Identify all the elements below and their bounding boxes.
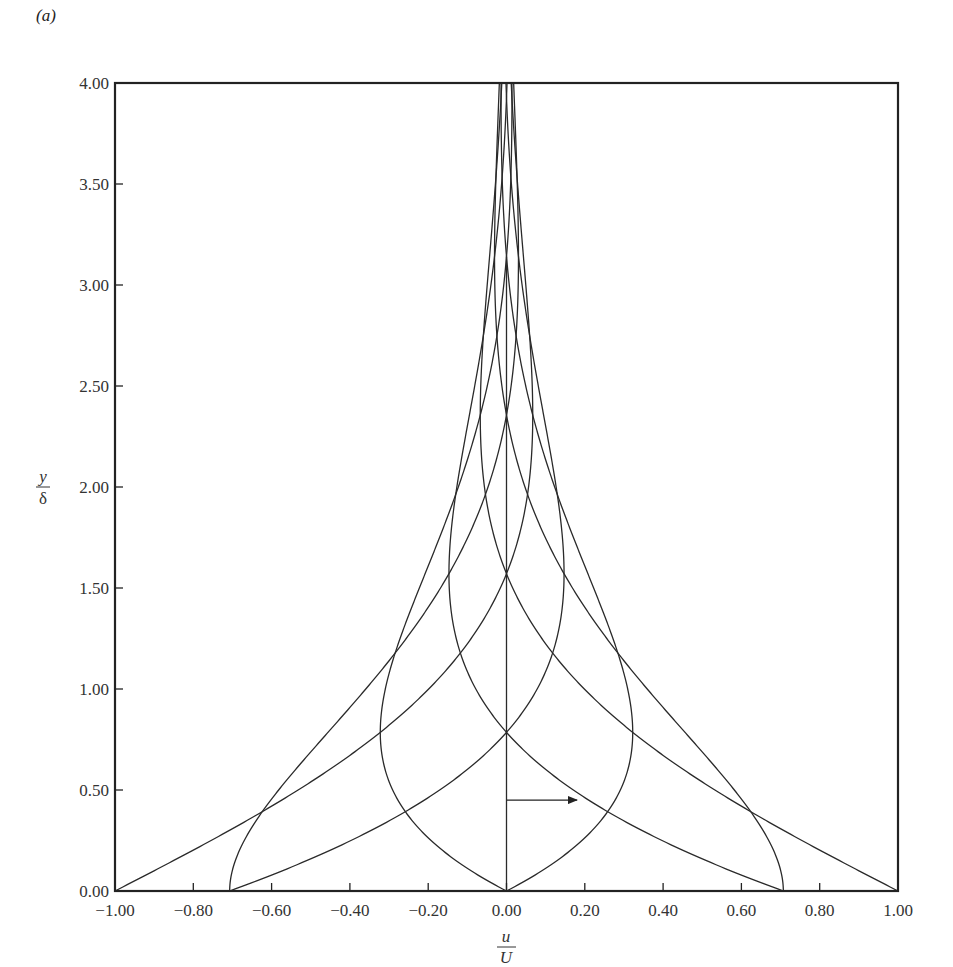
profile-curve-180: [115, 83, 533, 891]
y-tick-label: 0.00: [79, 882, 109, 901]
x-tick-label: −1.00: [95, 901, 134, 920]
y-tick-label: 2.00: [79, 478, 109, 497]
y-tick-label: 0.50: [79, 781, 109, 800]
profile-curve-0: [480, 83, 898, 891]
profile-curve-45: [495, 83, 784, 891]
x-tick-label: 0.40: [648, 901, 678, 920]
x-axis-ticks: −1.00−0.80−0.60−0.40−0.200.000.200.400.6…: [95, 883, 913, 920]
annotations: [507, 257, 577, 891]
y-tick-label: 1.00: [79, 680, 109, 699]
x-tick-label: −0.20: [409, 901, 448, 920]
x-tick-label: 0.20: [570, 901, 600, 920]
y-tick-label: 3.50: [79, 175, 109, 194]
y-axis-ticks: 0.000.501.001.502.002.503.003.504.00: [79, 74, 123, 901]
profile-curve-315: [449, 83, 783, 891]
x-label-denominator: U: [500, 948, 514, 967]
x-tick-label: −0.60: [252, 901, 291, 920]
x-tick-label: 1.00: [883, 901, 913, 920]
profile-curve-135: [230, 83, 564, 891]
y-tick-label: 3.00: [79, 276, 109, 295]
x-tick-label: 0.00: [492, 901, 522, 920]
y-tick-label: 1.50: [79, 579, 109, 598]
profile-curve-90: [501, 83, 633, 891]
x-tick-label: −0.40: [330, 901, 369, 920]
x-label-numerator: u: [502, 927, 511, 946]
velocity-profile-chart: −1.00−0.80−0.60−0.40−0.200.000.200.400.6…: [0, 0, 953, 967]
y-axis-label: y δ: [36, 467, 50, 508]
y-tick-label: 4.00: [79, 74, 109, 93]
x-tick-label: −0.80: [174, 901, 213, 920]
profile-curve-225: [230, 83, 519, 891]
x-tick-label: 0.60: [727, 901, 757, 920]
y-label-numerator: y: [37, 467, 47, 486]
y-tick-label: 2.50: [79, 377, 109, 396]
x-axis-label: u U: [497, 927, 516, 967]
profile-curve-270: [380, 83, 512, 891]
x-tick-label: 0.80: [805, 901, 835, 920]
y-label-denominator: δ: [39, 489, 47, 508]
